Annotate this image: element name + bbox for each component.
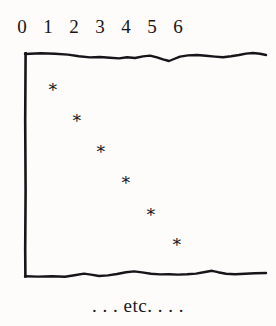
figure-caption: . . . etc. . . . — [0, 294, 276, 318]
scatter-figure: 0123456 ∗∗∗∗∗∗ . . . etc. . . . — [0, 0, 276, 326]
data-point-marker: ∗ — [144, 205, 158, 219]
data-point-marker: ∗ — [170, 235, 184, 249]
data-point-marker: ∗ — [70, 111, 84, 125]
data-point-marker: ∗ — [119, 173, 133, 187]
data-point-marker: ∗ — [46, 80, 60, 94]
data-point-marker: ∗ — [94, 142, 108, 156]
data-point-layer: ∗∗∗∗∗∗ — [0, 0, 276, 326]
